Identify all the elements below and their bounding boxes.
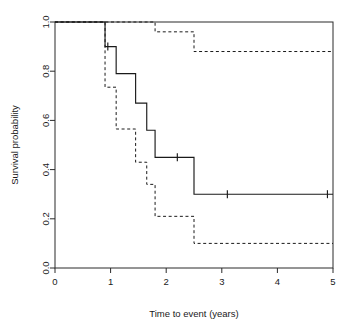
y-tick-label-5: 1.0 bbox=[40, 15, 51, 28]
y-tick-label-4: 0.8 bbox=[40, 65, 51, 78]
y-axis-ticks bbox=[50, 22, 55, 268]
censor-marks-group bbox=[108, 43, 328, 199]
y-tick-label-3: 0.6 bbox=[40, 114, 51, 127]
confidence-band-curve-1 bbox=[55, 22, 333, 52]
x-axis-ticks bbox=[55, 268, 333, 273]
x-tick-label-5: 5 bbox=[330, 276, 335, 287]
x-tick-label-4: 4 bbox=[275, 276, 280, 287]
plot-canvas: 012345 0.00.20.40.60.81.0 Time to event … bbox=[0, 0, 352, 331]
y-axis-title: Survival probability bbox=[9, 105, 20, 185]
x-tick-label-1: 1 bbox=[108, 276, 113, 287]
x-tick-label-0: 0 bbox=[52, 276, 57, 287]
x-tick-label-3: 3 bbox=[219, 276, 224, 287]
x-tick-label-2: 2 bbox=[164, 276, 169, 287]
kaplan-meier-figure: 012345 0.00.20.40.60.81.0 Time to event … bbox=[0, 0, 352, 331]
y-tick-label-1: 0.2 bbox=[40, 212, 51, 225]
x-axis-title: Time to event (years) bbox=[149, 308, 238, 319]
confidence-band-curve-2 bbox=[55, 22, 333, 243]
y-tick-label-0: 0.0 bbox=[40, 261, 51, 274]
y-tick-label-2: 0.4 bbox=[40, 163, 51, 176]
y-axis-tick-labels: 0.00.20.40.60.81.0 bbox=[40, 15, 51, 274]
data-series-group bbox=[55, 22, 333, 243]
x-axis-tick-labels: 012345 bbox=[52, 276, 335, 287]
